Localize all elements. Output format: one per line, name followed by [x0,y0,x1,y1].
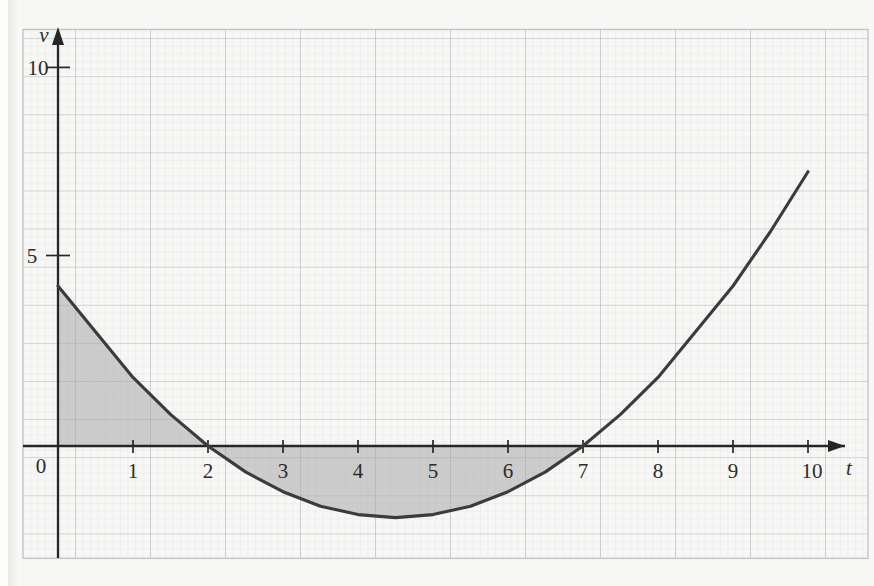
t-tick-label-6: 6 [503,459,514,483]
t-tick-label-9: 9 [728,459,739,483]
v-tick-label-10: 10 [28,56,49,80]
t-tick-label-5: 5 [428,459,439,483]
t-tick-label-8: 8 [653,459,664,483]
t-tick-label-1: 1 [128,459,139,483]
t-tick-label-10: 10 [802,459,823,483]
velocity-time-figure: 5 10 0 1 2 3 4 5 6 7 8 9 10 v t [0,0,874,586]
t-tick-label-3: 3 [278,459,289,483]
velocity-time-plot: 5 10 0 1 2 3 4 5 6 7 8 9 10 v t [0,0,874,586]
v-axis-label: v [39,23,49,47]
t-tick-label-7: 7 [578,459,589,483]
origin-label: 0 [36,454,47,478]
t-tick-label-2: 2 [203,459,214,483]
v-tick-label-5: 5 [27,244,38,268]
t-tick-label-4: 4 [353,459,364,483]
